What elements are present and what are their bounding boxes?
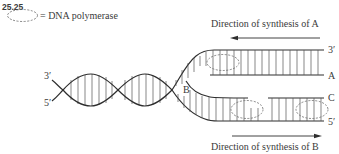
direction-b-label: Direction of synthesis of B [211,141,319,152]
fork-label-b: B [183,84,190,95]
helix-5prime-label: 5′ [44,97,51,108]
legend-label: = DNA polymerase [40,10,118,21]
bottom-5prime-label: 5′ [328,116,335,127]
diagram-canvas: 25.25 = DNA polymerase Direction of synt… [0,0,339,154]
dna-polymerase-lagging-2-icon [296,101,328,119]
arrow-left-icon [230,36,320,40]
arrow-right-icon [232,134,322,138]
dna-replication-diagram: 25.25 = DNA polymerase Direction of synt… [0,0,339,154]
direction-a-label: Direction of synthesis of A [211,18,320,29]
strand-c-label: C [328,92,335,103]
figure-number: 25.25 [2,2,24,12]
top-3prime-label: 3′ [328,44,335,55]
strand-a-label: A [328,70,336,81]
helix-3prime-label: 3′ [44,70,51,81]
replication-fork [172,50,324,121]
double-helix [52,74,172,106]
